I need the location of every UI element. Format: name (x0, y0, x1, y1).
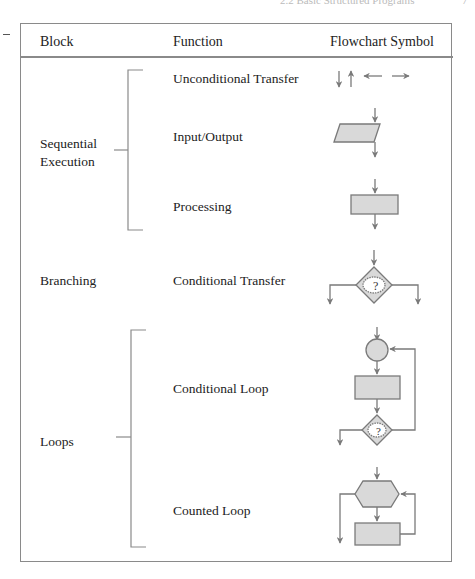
conditional-loop-icon: ? (340, 327, 415, 445)
bracket-loops (116, 330, 146, 547)
decision-diamond-icon: ? (330, 250, 418, 304)
bracket-sequential (114, 70, 143, 230)
rectangle-icon (351, 179, 398, 229)
counted-loop-icon (340, 467, 415, 545)
decision-mark: ? (373, 279, 378, 293)
decision-mark: ? (376, 425, 381, 437)
parallelogram-icon (334, 108, 380, 157)
arrows-icon (339, 71, 409, 87)
